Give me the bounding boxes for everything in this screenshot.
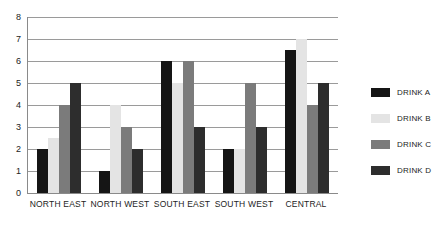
legend-item[interactable]: DRINK B	[371, 113, 445, 124]
legend-swatch-icon	[371, 88, 390, 97]
legend-label: DRINK D	[397, 166, 431, 175]
bar[interactable]	[223, 149, 234, 193]
bar[interactable]	[161, 61, 172, 193]
legend-swatch-icon	[371, 166, 390, 175]
x-tick-label: NORTH WEST	[89, 198, 151, 214]
y-tick-label: 1	[16, 167, 21, 176]
bar[interactable]	[307, 105, 318, 193]
x-tick-label: SOUTH WEST	[213, 198, 275, 214]
x-tick-label: SOUTH EAST	[151, 198, 213, 214]
plot-area	[27, 17, 338, 194]
bar-chart: 876543210 NORTH EASTNORTH WESTSOUTH EAST…	[0, 0, 448, 239]
bar[interactable]	[48, 138, 59, 193]
x-tick-label: NORTH EAST	[27, 198, 89, 214]
bar[interactable]	[132, 149, 143, 193]
legend-swatch-icon	[371, 114, 390, 123]
x-tick-label: CENTRAL	[275, 198, 337, 214]
bar-group	[214, 17, 276, 193]
legend-item[interactable]: DRINK D	[371, 165, 445, 176]
y-tick-label: 7	[16, 35, 21, 44]
bar[interactable]	[234, 149, 245, 193]
bar[interactable]	[318, 83, 329, 193]
bar-group	[276, 17, 338, 193]
bar[interactable]	[183, 61, 194, 193]
bar-group	[28, 17, 90, 193]
x-axis: NORTH EASTNORTH WESTSOUTH EASTSOUTH WEST…	[27, 198, 337, 214]
y-axis: 876543210	[0, 0, 24, 239]
bar[interactable]	[296, 39, 307, 193]
y-tick-label: 4	[16, 101, 21, 110]
legend: DRINK ADRINK BDRINK CDRINK D	[371, 87, 445, 191]
bar[interactable]	[245, 83, 256, 193]
legend-label: DRINK A	[397, 88, 430, 97]
bar[interactable]	[256, 127, 267, 193]
legend-label: DRINK B	[397, 114, 431, 123]
bar-group	[152, 17, 214, 193]
bar[interactable]	[37, 149, 48, 193]
bars-layer	[28, 17, 338, 193]
y-tick-label: 0	[16, 189, 21, 198]
bar-group	[90, 17, 152, 193]
legend-label: DRINK C	[397, 140, 431, 149]
bar[interactable]	[285, 50, 296, 193]
bar[interactable]	[121, 127, 132, 193]
bar[interactable]	[70, 83, 81, 193]
y-tick-label: 5	[16, 79, 21, 88]
bar[interactable]	[99, 171, 110, 193]
legend-swatch-icon	[371, 140, 390, 149]
bar[interactable]	[110, 105, 121, 193]
y-tick-label: 2	[16, 145, 21, 154]
y-tick-label: 8	[16, 13, 21, 22]
legend-item[interactable]: DRINK C	[371, 139, 445, 150]
bar[interactable]	[172, 83, 183, 193]
bar[interactable]	[59, 105, 70, 193]
y-tick-label: 6	[16, 57, 21, 66]
legend-item[interactable]: DRINK A	[371, 87, 445, 98]
bar[interactable]	[194, 127, 205, 193]
y-tick-label: 3	[16, 123, 21, 132]
